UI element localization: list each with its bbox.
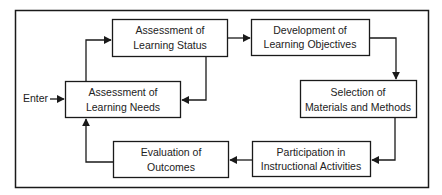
enter-label: Enter bbox=[23, 92, 49, 104]
arrow-needs-to-status bbox=[86, 40, 111, 81]
node-label: Evaluation of bbox=[141, 146, 202, 158]
node-participation: Participation in Instructional Activitie… bbox=[253, 142, 371, 177]
node-label: Assessment of bbox=[89, 86, 158, 98]
node-label: Selection of bbox=[331, 86, 386, 98]
arrow-status-to-needs bbox=[182, 57, 206, 100]
arrow-objectives-to-materials bbox=[370, 38, 396, 79]
node-label: Learning Status bbox=[133, 39, 207, 51]
node-label: Instructional Activities bbox=[261, 160, 361, 172]
arrow-materials-to-participation bbox=[372, 118, 395, 160]
node-label: Outcomes bbox=[147, 161, 195, 173]
node-label: Development of bbox=[273, 24, 347, 36]
learning-cycle-diagram: Assessment of Learning Status Developmen… bbox=[0, 0, 442, 195]
arrow-evaluation-to-needs bbox=[86, 119, 113, 162]
node-learning-objectives: Development of Learning Objectives bbox=[252, 20, 370, 56]
node-materials-methods: Selection of Materials and Methods bbox=[301, 81, 417, 118]
node-learning-needs: Assessment of Learning Needs bbox=[66, 82, 181, 118]
node-label: Participation in bbox=[277, 146, 346, 158]
node-learning-status: Assessment of Learning Status bbox=[113, 20, 228, 57]
node-label: Learning Needs bbox=[86, 101, 160, 113]
node-label: Learning Objectives bbox=[264, 38, 357, 50]
node-evaluation: Evaluation of Outcomes bbox=[114, 142, 229, 178]
node-label: Materials and Methods bbox=[305, 101, 411, 113]
node-label: Assessment of bbox=[136, 24, 205, 36]
